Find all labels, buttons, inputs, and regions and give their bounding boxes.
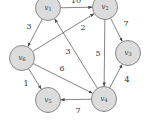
- edge-weight-v6-v5: 1: [23, 79, 28, 88]
- nodes-layer: v1v2v3v4v5v6: [10, 0, 141, 113]
- edge-v6-v5: [29, 69, 42, 89]
- edges-layer: [28, 7, 122, 100]
- edge-weight-v6-v2: 2: [80, 23, 85, 32]
- edge-weight-v4-v5: 7: [75, 106, 80, 115]
- edge-weight-v2-v4: 5: [95, 49, 100, 58]
- edge-line: [61, 99, 92, 100]
- edge-weight-v1-v6: 3: [26, 22, 31, 31]
- edge-weight-v2-v3: 7: [123, 19, 128, 28]
- edge-v2-v4: [104, 19, 105, 86]
- edge-line: [110, 65, 122, 88]
- edge-v4-v5: [61, 99, 92, 100]
- edge-weight-v4-v1: 3: [65, 47, 70, 56]
- graph-diagram: 10323574617 v1v2v3v4v5v6: [0, 0, 153, 123]
- edge-line: [29, 69, 42, 89]
- edge-v2-v3: [111, 18, 123, 41]
- edge-line: [104, 19, 105, 86]
- node-v3: v3: [116, 41, 141, 66]
- node-v4: v4: [92, 87, 117, 112]
- edge-weight-v6-v4: 6: [59, 64, 64, 73]
- edge-line: [111, 18, 123, 41]
- node-v2: v2: [93, 0, 118, 20]
- edge-v1-v2: [60, 7, 92, 8]
- node-v6: v6: [10, 46, 35, 71]
- edge-v4-v3: [110, 65, 122, 88]
- node-v1: v1: [36, 0, 61, 21]
- edge-weight-v4-v3: 4: [124, 75, 129, 84]
- edge-line: [60, 7, 92, 8]
- node-v5: v5: [36, 88, 61, 113]
- edge-weight-v1-v2: 10: [71, 0, 81, 5]
